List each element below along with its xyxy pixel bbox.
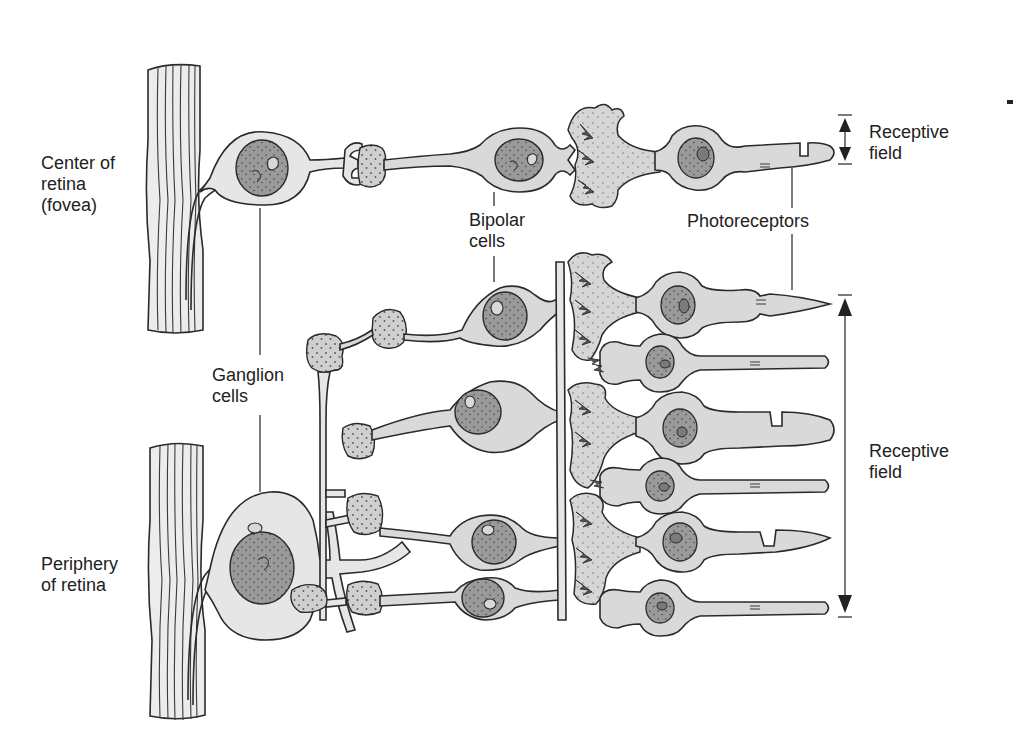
label-periphery-of-retina: Periphery of retina [41,554,118,596]
horizontal-cell-process [556,262,566,620]
receptive-field-arrow-top [838,115,852,164]
periphery-photoreceptor-5-cone [636,512,830,572]
periphery-photoreceptor-4-rod [590,458,829,514]
center-ganglion-cell [200,132,345,205]
periphery-photoreceptor-1-cone [636,272,830,338]
label-center-of-retina: Center of retina (fovea) [41,153,115,216]
periphery-cone-pedicle-lower [570,493,640,604]
label-photoreceptors: Photoreceptors [687,211,809,232]
label-receptive-field-top: Receptive field [869,122,949,164]
label-receptive-field-bottom: Receptive field [869,441,949,483]
periphery-cone-pedicle-upper [568,253,640,361]
periphery-photoreceptor-6-rod [600,580,829,636]
corner-mark [1007,100,1013,104]
periphery-photoreceptor-2-rod [588,334,829,392]
periphery-bipolar-cell-3 [380,515,560,570]
label-ganglion-cells: Ganglion cells [212,365,284,407]
retina-circuit-diagram [0,0,1013,755]
center-ganglion-dendrite-terminal [343,143,386,187]
periphery-photoreceptor-3-cone [636,392,834,464]
center-photoreceptor [655,126,834,191]
periphery-bipolar-cell-4 [380,578,560,620]
label-bipolar-cells: Bipolar cells [469,210,525,252]
receptive-field-arrow-bottom [838,295,852,617]
optic-nerve-bundle-top [146,64,230,333]
periphery-bipolar-cell-2 [372,381,560,452]
center-bipolar-cell [384,128,575,192]
center-cone-pedicle [568,104,660,207]
